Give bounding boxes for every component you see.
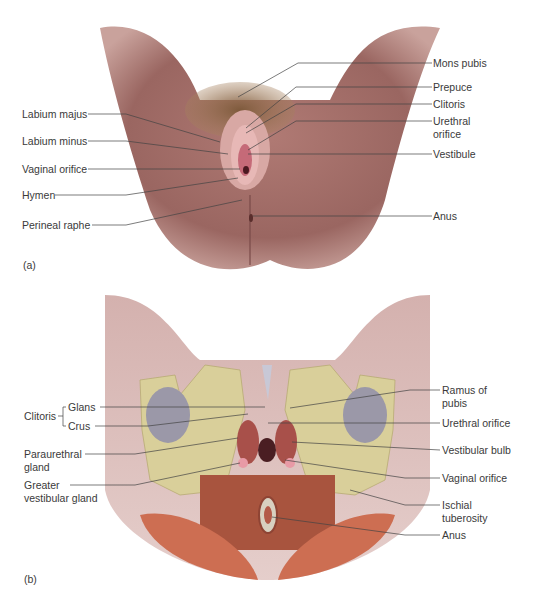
label-greater-vestibular-gland: Greater vestibular gland (24, 479, 98, 504)
panel-b-deep-structures: Clitoris Glans Crus Paraurethral gland G… (0, 290, 535, 605)
label-labium-minus: Labium minus (22, 135, 87, 148)
panel-b-id: (b) (24, 573, 37, 585)
left-acetabulum (146, 387, 190, 443)
right-greater-vestibular-gland (285, 458, 295, 468)
label-vestibule: Vestibule (433, 148, 476, 161)
label-labium-majus: Labium majus (22, 108, 87, 121)
label-clitoris-group: Clitoris (24, 410, 56, 423)
panel-a-id: (a) (23, 259, 36, 271)
label-mons-pubis: Mons pubis (433, 57, 487, 70)
anus-shape (249, 214, 253, 222)
label-anus-b: Anus (442, 529, 466, 542)
label-vestibular-bulb: Vestibular bulb (442, 444, 511, 457)
vaginal-orifice-shape (243, 166, 249, 174)
label-vaginal-orifice: Vaginal orifice (22, 163, 87, 176)
left-vestibular-bulb (237, 420, 259, 464)
right-acetabulum (343, 387, 387, 443)
vaginal-orifice-deep (258, 438, 276, 462)
label-urethral-orifice-b: Urethral orifice (442, 417, 510, 430)
label-clitoris: Clitoris (433, 98, 465, 111)
label-ramus-of-pubis: Ramus of pubis (442, 384, 487, 409)
label-crus: Crus (68, 420, 90, 433)
label-glans: Glans (68, 401, 95, 414)
label-ischial-tuberosity: Ischial tuberosity (442, 499, 488, 524)
label-paraurethral-gland: Paraurethral gland (24, 448, 82, 473)
panel-a-external-genitalia: Labium majus Labium minus Vaginal orific… (0, 0, 535, 290)
clitoris-bracket (58, 407, 66, 426)
label-prepuce: Prepuce (433, 81, 472, 94)
label-hymen: Hymen (22, 189, 55, 202)
label-urethral-orifice: Urethral orifice (433, 115, 470, 140)
label-anus: Anus (433, 210, 457, 223)
label-perineal-raphe: Perineal raphe (22, 219, 90, 232)
label-vaginal-orifice-b: Vaginal orifice (442, 472, 507, 485)
anus-deep (264, 506, 272, 524)
